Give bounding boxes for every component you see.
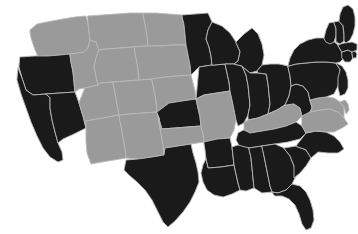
state-co[interactable] [113,79,157,115]
state-or[interactable] [19,54,75,95]
state-wy[interactable] [94,47,139,85]
state-ar[interactable] [204,138,234,168]
state-sd[interactable] [134,45,191,80]
state-mt[interactable] [88,13,148,50]
state-nd[interactable] [143,13,186,46]
us-map-svg [0,0,358,234]
state-nm[interactable] [119,112,164,159]
us-choropleth-map-figure [0,0,358,234]
